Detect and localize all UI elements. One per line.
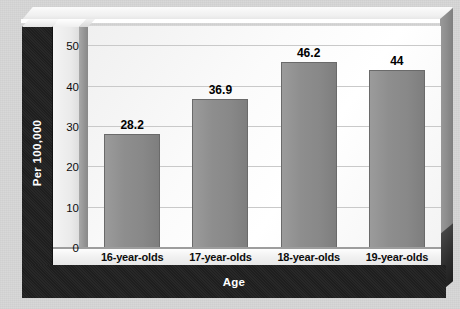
- x-axis-title: Age: [223, 276, 246, 288]
- x-axis-tick-label: 17-year-olds: [176, 248, 264, 266]
- x-axis-tick-label: 19-year-olds: [353, 248, 441, 266]
- y-axis-tick-label: 20: [52, 161, 79, 173]
- bar-value-label: 36.9: [209, 83, 232, 97]
- bar-slot: 36.9: [176, 26, 264, 248]
- bar-chart-figure: Per 100,000 28.236.946.244 16-year-olds1…: [0, 0, 460, 309]
- bar[interactable]: 28.2: [104, 134, 160, 248]
- y-axis-tick-label: 0: [52, 242, 79, 254]
- bar-value-label: 46.2: [297, 46, 320, 60]
- bar-slot: 46.2: [265, 26, 353, 248]
- y-axis-tick-label: 30: [52, 121, 79, 133]
- y-axis-title: Per 100,000: [22, 26, 52, 280]
- bar-value-label: 44: [390, 54, 403, 68]
- bar-slot: 28.2: [88, 26, 176, 248]
- y-axis-wall-edge: [79, 26, 88, 248]
- x-axis-tick-label: 18-year-olds: [265, 248, 353, 266]
- y-axis-tick-label: 40: [52, 81, 79, 93]
- x-axis-tick-label: 16-year-olds: [88, 248, 176, 266]
- x-axis-tick-labels: 16-year-olds17-year-olds18-year-olds19-y…: [88, 248, 441, 266]
- x-axis-title-band: Age: [22, 265, 446, 298]
- y-axis-strip: [52, 26, 79, 248]
- chart-3d-frame: Per 100,000 28.236.946.244 16-year-olds1…: [9, 7, 453, 299]
- bar[interactable]: 46.2: [281, 62, 337, 248]
- bar-value-label: 28.2: [120, 118, 143, 132]
- bar-slot: 44: [353, 26, 441, 248]
- y-axis-tick-label: 10: [52, 202, 79, 214]
- bar[interactable]: 36.9: [192, 99, 248, 248]
- bar[interactable]: 44: [369, 70, 425, 248]
- bars-layer: 28.236.946.244: [88, 26, 441, 248]
- y-axis-tick-label: 50: [52, 40, 79, 52]
